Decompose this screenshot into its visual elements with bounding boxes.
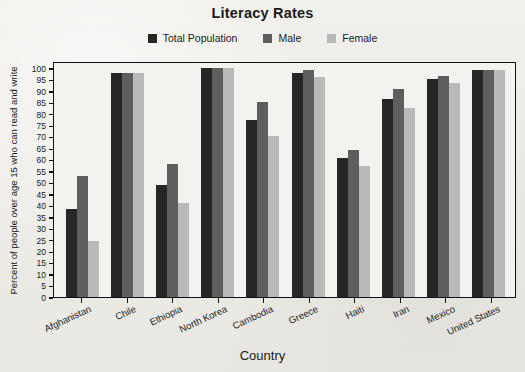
bar[interactable]	[337, 158, 348, 297]
bar-group	[240, 70, 285, 297]
bar[interactable]	[393, 89, 404, 297]
legend-label: Female	[342, 33, 377, 44]
y-axis-tick-label: 90	[37, 88, 49, 97]
bar[interactable]	[223, 68, 234, 297]
y-axis-tick-label: 100	[32, 65, 49, 74]
plot-inner	[54, 63, 515, 297]
bar-group	[150, 70, 195, 297]
legend-label: Male	[278, 33, 301, 44]
literacy-rates-bar-chart: Literacy Rates Total PopulationMaleFemal…	[0, 0, 525, 372]
y-axis-tick-label: 70	[37, 133, 49, 142]
x-axis-labels: AfghanistanChileEthiopiaNorth KoreaCambo…	[59, 303, 514, 347]
y-axis-tick-label: 80	[37, 111, 49, 120]
bar[interactable]	[133, 73, 144, 297]
y-axis-tick-label: 40	[37, 202, 49, 211]
x-axis-label: Mexico	[424, 303, 456, 326]
y-axis: 1009590858075706560555045403530252015105…	[0, 62, 53, 298]
x-axis-label: North Korea	[178, 303, 229, 335]
x-axis-title: Country	[0, 348, 525, 363]
bar[interactable]	[257, 102, 268, 297]
x-axis-label: Haiti	[344, 303, 366, 321]
bar[interactable]	[167, 164, 178, 297]
y-axis-tick-label: 95	[37, 76, 49, 85]
bar[interactable]	[438, 76, 449, 297]
bar[interactable]	[292, 73, 303, 297]
bar[interactable]	[111, 73, 122, 297]
y-axis-tick-label: 60	[37, 156, 49, 165]
chart-title: Literacy Rates	[0, 5, 525, 21]
y-axis-tick-label: 35	[37, 214, 49, 223]
bar[interactable]	[246, 120, 257, 297]
y-axis-tick-label: 75	[37, 122, 49, 131]
bar[interactable]	[348, 150, 359, 297]
bar[interactable]	[303, 70, 314, 297]
bar-group	[421, 70, 466, 297]
y-axis-tick-label: 20	[37, 248, 49, 257]
legend-item[interactable]: Total Population	[148, 33, 238, 44]
legend-swatch-icon	[148, 34, 157, 43]
y-axis-tick-label: 25	[37, 237, 49, 246]
y-axis-tick-label: 45	[37, 191, 49, 200]
bar[interactable]	[156, 185, 167, 297]
bar[interactable]	[178, 203, 189, 297]
bar[interactable]	[268, 136, 279, 297]
bar-group	[105, 70, 150, 297]
bar[interactable]	[77, 176, 88, 297]
bar[interactable]	[449, 83, 460, 297]
y-axis-tick-label: 0	[41, 294, 49, 303]
bar[interactable]	[122, 73, 133, 297]
y-axis-tick-label: 85	[37, 99, 49, 108]
legend-label: Total Population	[163, 33, 238, 44]
x-axis-label: Cambodia	[230, 303, 274, 331]
bar[interactable]	[314, 77, 325, 297]
bars-area	[60, 70, 511, 297]
y-axis-tick-label: 5	[41, 282, 49, 291]
bar[interactable]	[66, 209, 77, 297]
chart-legend: Total PopulationMaleFemale	[0, 33, 525, 44]
bar-group	[376, 70, 421, 297]
bar-group	[60, 70, 105, 297]
bar[interactable]	[382, 99, 393, 297]
bar[interactable]	[483, 70, 494, 297]
plot-area	[53, 62, 516, 298]
bar[interactable]	[88, 241, 99, 297]
bar[interactable]	[472, 70, 483, 297]
bar[interactable]	[404, 108, 415, 297]
y-axis-tick-label: 15	[37, 259, 49, 268]
x-axis-label: Afghanistan	[42, 303, 92, 334]
legend-swatch-icon	[327, 34, 336, 43]
legend-item[interactable]: Male	[263, 33, 301, 44]
bar-group	[331, 70, 376, 297]
bar[interactable]	[212, 68, 223, 297]
x-axis-label: Iran	[391, 303, 410, 320]
x-axis-label: Greece	[287, 303, 320, 326]
y-axis-tick-label: 10	[37, 271, 49, 280]
y-axis-tick-label: 65	[37, 145, 49, 154]
bar-group	[466, 70, 511, 297]
bar[interactable]	[427, 79, 438, 297]
y-axis-tick-label: 55	[37, 168, 49, 177]
bar-group	[195, 70, 240, 297]
legend-item[interactable]: Female	[327, 33, 377, 44]
x-axis-label: Chile	[114, 303, 138, 322]
bar[interactable]	[494, 70, 505, 297]
y-axis-tick-label: 30	[37, 225, 49, 234]
bar[interactable]	[359, 166, 370, 297]
bar[interactable]	[201, 68, 212, 297]
y-axis-tick-label: 50	[37, 179, 49, 188]
legend-swatch-icon	[263, 34, 272, 43]
bar-group	[285, 70, 330, 297]
